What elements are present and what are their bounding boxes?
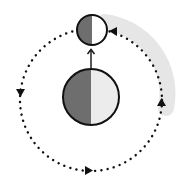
planet-dark-half — [63, 69, 91, 125]
planet — [63, 69, 119, 125]
planet-lit-half — [91, 69, 119, 125]
diagram-canvas — [0, 0, 182, 186]
arrowhead-left-down-icon — [16, 89, 25, 97]
connector-arrow — [88, 50, 95, 69]
orbit-diagram: A moon orbiting a planet counterclockwis… — [0, 0, 182, 186]
moon — [77, 15, 107, 45]
arrowhead-bottom-right-icon — [85, 166, 93, 175]
moon-dark-half — [77, 15, 92, 45]
